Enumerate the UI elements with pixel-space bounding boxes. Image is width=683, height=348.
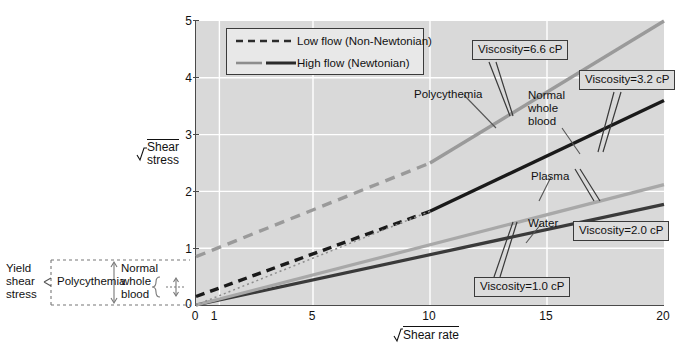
curve-label-water: Water bbox=[528, 217, 558, 230]
legend-swatch-dashed bbox=[235, 34, 297, 48]
curve-label-plasma: Plasma bbox=[531, 170, 569, 183]
legend-label-low-flow: Low flow (Non-Newtonian) bbox=[297, 35, 432, 47]
legend-item-high-flow: High flow (Newtonian) bbox=[227, 52, 423, 74]
y-tick-5: 5 bbox=[172, 15, 192, 27]
y-tick-1: 1 bbox=[172, 243, 192, 255]
callout-viscosity-normal-whole-blood: Viscosity=3.2 cP bbox=[579, 70, 675, 90]
legend-label-high-flow: High flow (Newtonian) bbox=[297, 57, 410, 69]
callout-viscosity-water: Viscosity=1.0 cP bbox=[474, 277, 570, 297]
legend-item-low-flow: Low flow (Non-Newtonian) bbox=[227, 30, 423, 52]
yield-shear-stress-label: Yield shear stress bbox=[6, 262, 37, 301]
y-axis-title: Shear stress bbox=[137, 139, 179, 167]
legend: Low flow (Non-Newtonian) High flow (Newt… bbox=[226, 28, 424, 75]
curve-label-normal-whole-blood: Normal whole blood bbox=[528, 89, 565, 128]
callout-viscosity-polycythemia: Viscosity=6.6 cP bbox=[472, 40, 568, 60]
legend-swatch-solid bbox=[235, 56, 297, 70]
x-tick-1: 1 bbox=[202, 310, 226, 322]
y-tick-2: 2 bbox=[172, 186, 192, 198]
radical-icon-y bbox=[137, 146, 147, 162]
radical-icon-x bbox=[394, 328, 403, 342]
y-tick-4: 4 bbox=[172, 72, 192, 84]
x-tick-5: 5 bbox=[300, 310, 324, 322]
bracket-label-polycythemia: Polycythemia bbox=[57, 275, 125, 288]
bracket-label-normal-whole-blood: Normal whole blood bbox=[121, 262, 158, 301]
x-tick-15: 15 bbox=[534, 310, 558, 322]
x-tick-20: 20 bbox=[651, 310, 675, 322]
figure-root: 5 4 3 2 1 0 0 1 5 10 15 20 Shear rate bbox=[0, 0, 683, 348]
x-tick-10: 10 bbox=[417, 310, 441, 322]
callout-viscosity-plasma: Viscosity=2.0 cP bbox=[573, 221, 669, 241]
curve-label-polycythemia: Polycythemia bbox=[414, 88, 482, 101]
x-axis-title: Shear rate bbox=[394, 328, 459, 342]
